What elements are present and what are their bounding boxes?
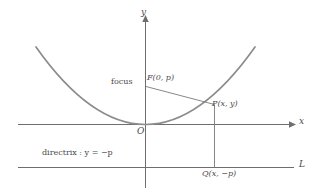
y-axis-label: y: [141, 8, 146, 17]
x-axis-label: x: [299, 117, 304, 126]
origin-label: O: [137, 127, 144, 136]
diagram-canvas: [0, 0, 318, 194]
segment-focus-to-p: [146, 87, 215, 105]
parabola-diagram: y x L O focus F(0, p) P(x, y) Q(x, −p) d…: [0, 0, 318, 194]
focus-point-label: F(0, p): [147, 74, 174, 82]
point-q-label: Q(x, −p): [202, 170, 236, 178]
directrix-equation-label: directrix : y = −p: [42, 149, 113, 157]
y-axis: [142, 15, 148, 188]
focus-annotation-label: focus: [111, 78, 133, 86]
point-p-label: P(x, y): [212, 100, 238, 108]
directrix-line-label: L: [299, 160, 305, 169]
